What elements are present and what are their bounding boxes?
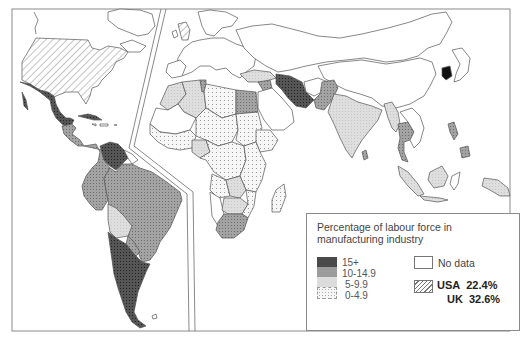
egypt <box>236 90 258 114</box>
legend-label-15plus: 15+ <box>342 258 359 268</box>
india <box>328 94 382 158</box>
uk-label: UK <box>447 293 463 305</box>
uk-value: 32.6% <box>469 293 500 305</box>
sumatra <box>398 166 424 196</box>
south-korea <box>442 66 452 80</box>
cuba <box>78 114 102 120</box>
ethiopia <box>256 130 278 152</box>
legend-swatch-5-9 <box>317 277 337 287</box>
usa-label: USA <box>437 279 460 291</box>
scandinavia <box>198 10 238 36</box>
legend-swatch-0-4 <box>317 287 337 299</box>
legend-label-5-9: 5-9.9 <box>345 280 368 290</box>
philippines <box>448 122 470 158</box>
legend-label-0-4: 0-4.9 <box>345 291 368 301</box>
ireland <box>172 30 178 38</box>
legend-uk: UK32.6% <box>447 293 500 305</box>
java <box>420 196 448 202</box>
greenland <box>108 9 155 36</box>
legend-label-10-14: 10-14.9 <box>342 269 376 279</box>
borneo <box>428 166 448 188</box>
legend-swatch-15plus <box>317 257 337 267</box>
japan <box>452 48 470 82</box>
legend-title: Percentage of labour force in manufactur… <box>317 221 517 245</box>
sri-lanka <box>362 150 368 160</box>
madagascar <box>272 184 286 212</box>
central-america <box>62 124 84 146</box>
caribbean-islands <box>92 124 117 126</box>
legend-swatch-no-data <box>414 256 433 269</box>
falklands <box>152 314 157 319</box>
legend-label-no-data: No data <box>438 257 475 269</box>
usa-value: 22.4% <box>466 279 497 291</box>
sulawesi <box>450 172 460 190</box>
uk <box>178 22 190 40</box>
legend-swatch-10-14 <box>317 267 337 277</box>
new-guinea <box>482 178 510 196</box>
legend-swatch-hatched <box>414 280 433 293</box>
legend-usa: USA22.4% <box>437 279 497 291</box>
usa <box>22 38 128 104</box>
legend-box: Percentage of labour force in manufactur… <box>306 213 520 331</box>
